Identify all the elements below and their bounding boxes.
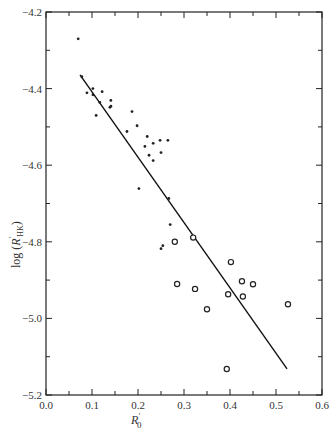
filled-dot-point: [159, 139, 162, 142]
filled-dot-point: [92, 93, 95, 96]
filled-dot-point: [109, 106, 112, 109]
filled-dot-point: [169, 223, 172, 226]
open-circle-point: [239, 279, 244, 284]
svg-text:0.5: 0.5: [269, 399, 283, 411]
regression-line: [80, 75, 287, 369]
filled-dot-point: [152, 159, 155, 162]
scatter-chart: 0.00.10.20.30.40.50.6−4.2−4.4−4.6−4.8−5.…: [0, 0, 335, 435]
svg-text:−4.2: −4.2: [22, 6, 42, 18]
y-axis-label: log (R'HK): [8, 221, 25, 268]
filled-dot-point: [131, 110, 134, 113]
svg-text:−4.6: −4.6: [22, 159, 42, 171]
filled-dot-point: [86, 91, 89, 94]
filled-dot-point: [160, 247, 163, 250]
open-circle-point: [250, 282, 255, 287]
filled-dot-point: [101, 90, 104, 93]
filled-dot-point: [152, 142, 155, 145]
open-circle-point: [192, 286, 197, 291]
open-circle-point: [228, 259, 233, 264]
open-circle-point: [172, 239, 177, 244]
x-axis-label: R'0: [130, 412, 142, 430]
svg-text:−5.2: −5.2: [22, 389, 42, 401]
filled-dot-point: [80, 75, 83, 78]
open-circle-point: [204, 307, 209, 312]
filled-dot-point: [136, 124, 139, 127]
svg-text:0.2: 0.2: [131, 399, 145, 411]
svg-text:0.4: 0.4: [223, 399, 237, 411]
filled-dot-point: [126, 130, 129, 133]
filled-dot-point: [148, 154, 151, 157]
axis-ticks: [46, 12, 322, 395]
svg-text:−4.8: −4.8: [22, 236, 42, 248]
svg-text:−4.4: −4.4: [22, 83, 42, 95]
open-circle-point: [224, 366, 229, 371]
open-circle-point: [226, 292, 231, 297]
filled-dot-point: [92, 87, 95, 90]
filled-dot-point: [161, 244, 164, 247]
filled-dot-point: [138, 187, 141, 190]
filled-dot-point: [95, 114, 98, 117]
open-circle-point: [240, 294, 245, 299]
filled-dot-point: [146, 135, 149, 138]
filled-dot-point: [160, 151, 163, 154]
open-circle-point: [191, 235, 196, 240]
svg-text:0.6: 0.6: [315, 399, 329, 411]
data-points: [77, 37, 291, 371]
plot-frame: [46, 12, 322, 395]
filled-dot-point: [109, 99, 112, 102]
open-circle-point: [285, 302, 290, 307]
filled-dot-point: [167, 139, 170, 142]
filled-dot-point: [77, 37, 80, 40]
svg-text:0.1: 0.1: [85, 399, 99, 411]
svg-text:−5.0: −5.0: [22, 312, 42, 324]
open-circle-point: [175, 281, 180, 286]
filled-dot-point: [144, 145, 147, 148]
filled-dot-point: [98, 101, 101, 104]
filled-dot-point: [167, 197, 170, 200]
svg-text:0.3: 0.3: [177, 399, 191, 411]
axis-tick-labels: 0.00.10.20.30.40.50.6−4.2−4.4−4.6−4.8−5.…: [22, 6, 329, 411]
